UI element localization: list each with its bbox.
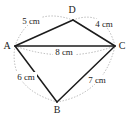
side-length-dc: 4 cm — [95, 19, 113, 29]
vertex-label-a: A — [3, 40, 11, 51]
vertex-label-b: B — [54, 104, 61, 115]
vertex-label-c: C — [119, 40, 126, 51]
side-length-bc: 7 cm — [88, 75, 106, 85]
diagonal-length-ac: 8 cm — [55, 47, 73, 57]
side-length-ab: 6 cm — [17, 72, 35, 82]
side-length-ad: 5 cm — [22, 16, 40, 26]
vertex-label-d: D — [68, 4, 75, 15]
geometry-figure: 5 cm 4 cm 8 cm 6 cm 7 cm A D C B — [0, 0, 130, 120]
quadrilateral-diagram-svg: 5 cm 4 cm 8 cm 6 cm 7 cm A D C B — [0, 0, 130, 120]
